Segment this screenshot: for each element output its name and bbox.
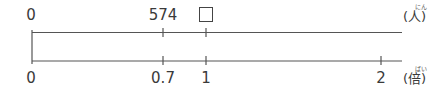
- double-number-line-diagram: 0 574 にん (人) 0 0.7 1 2 ばい (倍): [0, 0, 442, 94]
- bottom-unit-label: (倍): [403, 72, 426, 86]
- top-label-0: 0: [26, 7, 36, 23]
- bottom-label-1: 1: [201, 70, 211, 86]
- top-unit-label: (人): [403, 10, 426, 24]
- top-label-574: 574: [149, 7, 178, 23]
- bottom-label-0: 0: [26, 70, 36, 86]
- bottom-label-2: 2: [376, 70, 386, 86]
- answer-blank-box[interactable]: [199, 7, 213, 22]
- bottom-label-0-7: 0.7: [151, 70, 175, 86]
